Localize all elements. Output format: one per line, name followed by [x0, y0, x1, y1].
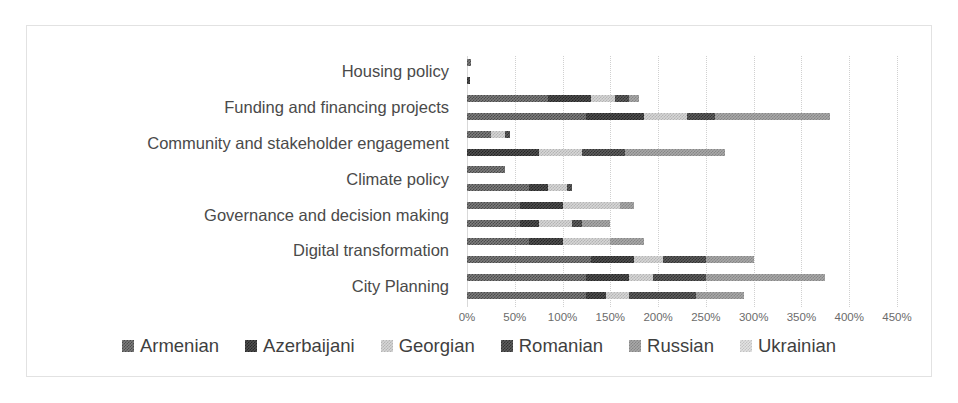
category-label-digital-transformation: Digital transformation	[293, 242, 449, 259]
bar-rows	[467, 56, 897, 307]
bar-segment-georgian	[548, 184, 567, 191]
bar-segment-russian	[706, 274, 825, 281]
legend-swatch-icon	[245, 340, 257, 352]
category-label-funding-and-financing-projects: Funding and financing projects	[224, 99, 449, 116]
bar-segment-armenian	[467, 202, 520, 209]
legend-item-ukrainian[interactable]: Ukrainian	[740, 337, 836, 356]
bar-segment-armenian	[467, 238, 529, 245]
bar-segment-georgian	[591, 95, 615, 102]
x-tick-label: 250%	[691, 311, 720, 323]
bar-segment-armenian	[467, 95, 548, 102]
bar-segment-romanian	[663, 256, 706, 263]
bar-row	[467, 59, 471, 66]
bar-segment-armenian	[467, 113, 586, 120]
legend-swatch-icon	[501, 340, 513, 352]
category-axis-labels: Housing policyFunding and financing proj…	[57, 56, 459, 307]
legend-swatch-icon	[122, 340, 134, 352]
bar-row	[467, 131, 510, 138]
bar-segment-romanian	[629, 292, 696, 299]
legend-label: Armenian	[140, 337, 219, 356]
bar-segment-georgian	[491, 131, 505, 138]
bar-row	[467, 202, 634, 209]
legend-label: Russian	[647, 337, 714, 356]
bar-segment-romanian	[505, 131, 510, 138]
x-tick-label: 200%	[643, 311, 672, 323]
bar-segment-georgian	[606, 292, 630, 299]
bar-segment-georgian	[644, 113, 687, 120]
bar-row	[467, 149, 725, 156]
bar-segment-azerbaijani	[529, 184, 548, 191]
bar-segment-georgian	[563, 238, 611, 245]
category-label-community-and-stakeholder-engagement: Community and stakeholder engagement	[147, 135, 449, 152]
bar-segment-azerbaijani	[520, 220, 539, 227]
legend-item-armenian[interactable]: Armenian	[122, 337, 219, 356]
chart-legend: ArmenianAzerbaijaniGeorgianRomanianRussi…	[27, 329, 931, 363]
legend-label: Azerbaijani	[263, 337, 355, 356]
bar-segment-armenian	[467, 59, 471, 66]
bar-segment-russian	[696, 292, 744, 299]
bar-segment-armenian	[467, 274, 586, 281]
bar-segment-russian	[706, 256, 754, 263]
bar-segment-georgian	[629, 274, 653, 281]
bar-row	[467, 77, 470, 84]
legend-label: Georgian	[399, 337, 475, 356]
bar-row	[467, 292, 744, 299]
legend-item-georgian[interactable]: Georgian	[381, 337, 475, 356]
bar-segment-azerbaijani	[529, 238, 562, 245]
x-tick-label: 150%	[596, 311, 625, 323]
bar-segment-armenian	[467, 292, 586, 299]
legend-item-russian[interactable]: Russian	[629, 337, 714, 356]
legend-label: Romanian	[519, 337, 603, 356]
legend-swatch-icon	[629, 340, 641, 352]
bar-segment-armenian	[467, 184, 529, 191]
category-label-housing-policy: Housing policy	[342, 63, 449, 80]
bar-segment-russian	[620, 202, 634, 209]
bar-segment-romanian	[615, 95, 629, 102]
bar-row	[467, 184, 572, 191]
legend-swatch-icon	[381, 340, 393, 352]
x-tick-label: 350%	[787, 311, 816, 323]
bar-row	[467, 95, 639, 102]
bar-row	[467, 238, 644, 245]
bar-segment-georgian	[539, 149, 582, 156]
chart-container: Housing policyFunding and financing proj…	[26, 25, 932, 377]
bar-segment-georgian	[539, 220, 572, 227]
bar-row	[467, 256, 754, 263]
bar-segment-azerbaijani	[467, 77, 470, 84]
legend-label: Ukrainian	[758, 337, 836, 356]
category-label-climate-policy: Climate policy	[346, 171, 449, 188]
bar-segment-armenian	[467, 131, 491, 138]
category-label-governance-and-decision-making: Governance and decision making	[204, 207, 449, 224]
bar-segment-azerbaijani	[548, 95, 591, 102]
legend-swatch-icon	[740, 340, 752, 352]
bar-segment-russian	[625, 149, 725, 156]
legend-item-azerbaijani[interactable]: Azerbaijani	[245, 337, 355, 356]
legend-item-romanian[interactable]: Romanian	[501, 337, 603, 356]
bar-segment-russian	[715, 113, 830, 120]
bar-segment-azerbaijani	[520, 202, 563, 209]
x-tick-label: 100%	[548, 311, 577, 323]
x-tick-label: 0%	[459, 311, 476, 323]
bar-segment-romanian	[572, 220, 582, 227]
plot-area	[467, 56, 897, 307]
gridline-450	[897, 56, 899, 307]
bar-segment-azerbaijani	[591, 256, 634, 263]
bar-segment-armenian	[467, 256, 591, 263]
bar-segment-azerbaijani	[586, 113, 643, 120]
value-axis-labels: 0%50%100%150%200%250%300%350%400%450%	[467, 311, 897, 329]
bar-segment-romanian	[687, 113, 716, 120]
bar-segment-romanian	[653, 274, 706, 281]
bar-segment-georgian	[634, 256, 663, 263]
bar-segment-romanian	[567, 184, 572, 191]
category-label-city-planning: City Planning	[352, 278, 449, 295]
x-tick-label: 300%	[739, 311, 768, 323]
bar-segment-russian	[629, 95, 639, 102]
bar-segment-azerbaijani	[467, 149, 539, 156]
bar-segment-armenian	[467, 220, 520, 227]
x-tick-label: 450%	[882, 311, 911, 323]
bar-row	[467, 220, 610, 227]
bar-row	[467, 166, 505, 173]
bar-segment-azerbaijani	[586, 274, 629, 281]
bar-segment-azerbaijani	[586, 292, 605, 299]
bar-row	[467, 274, 825, 281]
